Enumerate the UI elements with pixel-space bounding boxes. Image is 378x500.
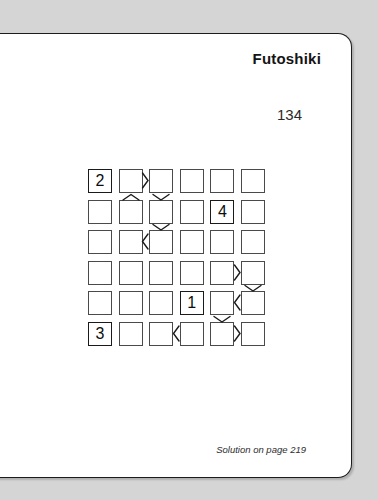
grid-cell-empty[interactable]: [119, 200, 143, 224]
constraint-greater-than-vertical: [243, 284, 263, 292]
constraint-greater-than-vertical: [151, 193, 171, 201]
grid-cell-empty[interactable]: [241, 169, 265, 193]
book-page: Futoshiki 134 2413 Solution on page 219: [0, 33, 352, 478]
grid-row: 2: [88, 169, 256, 195]
grid-cell-empty[interactable]: [88, 230, 112, 254]
grid-cell-empty[interactable]: [210, 230, 234, 254]
grid-cell-empty[interactable]: [241, 261, 265, 285]
puzzle-number: 134: [277, 106, 302, 123]
grid-cell-empty[interactable]: [241, 322, 265, 346]
page-title: Futoshiki: [253, 50, 321, 67]
constraint-less-than-horizontal: [141, 232, 150, 252]
constraint-greater-than-vertical: [151, 223, 171, 231]
grid-cell-empty[interactable]: [180, 322, 204, 346]
grid-row: [88, 261, 256, 287]
grid-cell-empty[interactable]: [149, 291, 173, 315]
grid-cell-empty[interactable]: [88, 291, 112, 315]
grid-cell-empty[interactable]: [149, 200, 173, 224]
grid-cell-given[interactable]: 2: [88, 169, 112, 193]
screenshot-scene: Futoshiki 134 2413 Solution on page 219: [0, 0, 378, 500]
grid-cell-empty[interactable]: [119, 261, 143, 285]
grid-cell-given[interactable]: 1: [180, 291, 204, 315]
constraint-less-than-horizontal: [172, 324, 181, 344]
constraint-less-than-vertical: [121, 193, 141, 201]
grid-row: [88, 230, 256, 256]
constraint-greater-than-horizontal: [233, 324, 242, 344]
grid-row: 1: [88, 291, 256, 317]
grid-cell-empty[interactable]: [241, 291, 265, 315]
grid-cell-empty[interactable]: [119, 322, 143, 346]
grid-cell-empty[interactable]: [210, 261, 234, 285]
grid-cell-empty[interactable]: [119, 291, 143, 315]
grid-cell-empty[interactable]: [210, 169, 234, 193]
grid-cell-empty[interactable]: [180, 200, 204, 224]
grid-cell-empty[interactable]: [180, 169, 204, 193]
grid-row: 4: [88, 200, 256, 226]
constraint-greater-than-horizontal: [141, 171, 150, 191]
grid-cell-empty[interactable]: [119, 230, 143, 254]
solution-reference: Solution on page 219: [216, 444, 306, 455]
futoshiki-grid[interactable]: 2413: [88, 169, 256, 359]
grid-cell-empty[interactable]: [119, 169, 143, 193]
grid-cell-empty[interactable]: [210, 322, 234, 346]
grid-cell-empty[interactable]: [88, 200, 112, 224]
grid-cell-empty[interactable]: [180, 261, 204, 285]
grid-cell-empty[interactable]: [149, 322, 173, 346]
grid-cell-empty[interactable]: [149, 169, 173, 193]
grid-cell-empty[interactable]: [241, 230, 265, 254]
constraint-greater-than-vertical: [212, 315, 232, 323]
grid-cell-empty[interactable]: [180, 230, 204, 254]
grid-cell-given[interactable]: 3: [88, 322, 112, 346]
grid-cell-empty[interactable]: [149, 261, 173, 285]
grid-cell-empty[interactable]: [210, 291, 234, 315]
constraint-greater-than-horizontal: [233, 263, 242, 283]
grid-rows: 2413: [88, 169, 256, 359]
constraint-less-than-horizontal: [233, 293, 242, 313]
grid-cell-empty[interactable]: [88, 261, 112, 285]
grid-cell-empty[interactable]: [241, 200, 265, 224]
page-content: Futoshiki 134 2413 Solution on page 219: [0, 34, 351, 477]
grid-cell-empty[interactable]: [149, 230, 173, 254]
grid-cell-given[interactable]: 4: [210, 200, 234, 224]
